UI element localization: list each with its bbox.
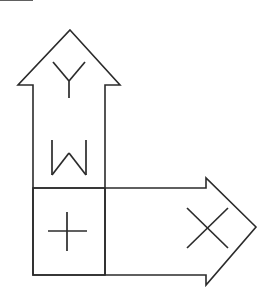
arrow-figure-svg: [0, 0, 269, 297]
glyph-w-stroke-2: [52, 153, 69, 175]
glyph-y-stroke-right: [69, 62, 85, 81]
glyph-w-stroke-3: [69, 153, 86, 175]
glyph-y: [53, 62, 85, 98]
glyph-w: [52, 140, 86, 175]
glyph-x: [187, 208, 228, 248]
figure-canvas: [0, 0, 269, 297]
glyph-plus: [48, 212, 87, 251]
glyph-y-stroke-left: [53, 62, 69, 81]
